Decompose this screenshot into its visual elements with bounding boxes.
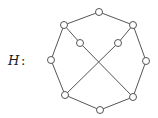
edge-right-lower-right (133, 61, 146, 97)
graph-label-colon: : (21, 53, 25, 68)
edge-left-lower-left (51, 60, 65, 95)
node-lower-right (130, 94, 137, 101)
node-inner-right (115, 40, 122, 47)
node-lower-left (62, 92, 69, 99)
graph-label: H (7, 53, 20, 68)
edge-upper-left-left (51, 25, 64, 60)
edge-lower-right-bottom (100, 97, 133, 110)
edge-inner-left-lower-right (80, 43, 133, 97)
edge-upper-right-right (133, 25, 146, 61)
node-top (96, 9, 103, 16)
node-inner-left (77, 40, 84, 47)
node-upper-left (61, 22, 68, 29)
graph-diagram: H : (0, 0, 158, 118)
node-right (143, 58, 150, 65)
graph-nodes (48, 9, 150, 114)
edge-top-upper-left (64, 12, 99, 25)
edge-lower-left-bottom (65, 95, 100, 110)
node-bottom (97, 107, 104, 114)
node-left (48, 57, 55, 64)
node-upper-right (130, 22, 137, 29)
edge-top-upper-right (99, 12, 133, 25)
edge-inner-right-lower-left (65, 43, 118, 95)
